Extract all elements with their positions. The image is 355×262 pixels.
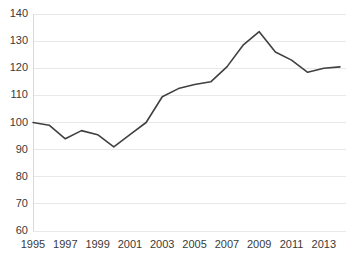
y-tick-label: 140 (0, 8, 28, 19)
line-chart: 60708090100110120130140 1995199719992001… (0, 0, 355, 262)
data-series-group (33, 32, 340, 147)
gridlines (33, 14, 346, 231)
x-tick-label: 2011 (275, 239, 309, 250)
y-tick-label: 90 (0, 144, 28, 155)
x-tick-label: 2013 (307, 239, 341, 250)
x-tick-label: 2001 (113, 239, 147, 250)
y-tick-label: 70 (0, 198, 28, 209)
y-tick-label: 60 (0, 225, 28, 236)
x-tick-label: 2007 (210, 239, 244, 250)
x-tick-label: 1999 (81, 239, 115, 250)
y-tick-label: 80 (0, 171, 28, 182)
x-tick-label: 1995 (16, 239, 50, 250)
y-tick-label: 130 (0, 35, 28, 46)
x-tick-label: 2003 (145, 239, 179, 250)
x-tick-label: 2005 (178, 239, 212, 250)
y-tick-label: 100 (0, 117, 28, 128)
chart-plot-area (0, 0, 355, 262)
x-tick-label: 2009 (242, 239, 276, 250)
x-tick-label: 1997 (48, 239, 82, 250)
y-tick-label: 110 (0, 89, 28, 100)
y-tick-label: 120 (0, 62, 28, 73)
series-line-0 (33, 32, 340, 147)
